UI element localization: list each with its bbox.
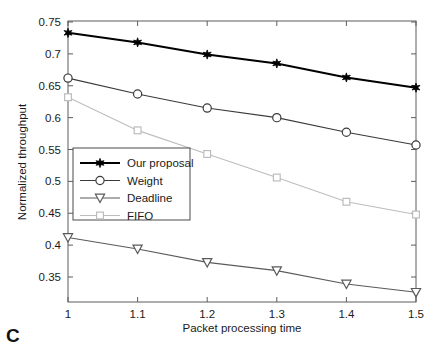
y-tick-label: 0.4 (45, 239, 62, 251)
x-axis-tick-labels: 11.11.21.31.41.5 (65, 308, 424, 320)
y-tick-label: 0.35 (39, 271, 61, 283)
data-point-marker-circle (96, 176, 104, 184)
x-tick-label: 1.2 (199, 308, 215, 320)
x-axis-title: Packet processing time (183, 322, 302, 334)
data-point-marker-square (343, 198, 350, 205)
chart-legend: Our proposalWeightDeadlineFIFO (73, 148, 193, 222)
x-tick-label: 1 (65, 308, 71, 320)
y-tick-label: 0.7 (45, 48, 61, 60)
x-tick-label: 1.3 (269, 308, 285, 320)
y-tick-label: 0.5 (45, 175, 61, 187)
y-tick-label: 0.6 (45, 112, 61, 124)
legend-label: Our proposal (127, 157, 193, 169)
legend-label: Deadline (127, 192, 172, 204)
data-point-marker-circle (273, 114, 281, 122)
y-axis-tick-labels: 0.350.40.450.50.550.60.650.70.75 (39, 16, 62, 283)
data-point-marker-circle (342, 128, 350, 136)
legend-label: FIFO (127, 210, 153, 222)
data-point-marker-square (97, 212, 104, 219)
data-point-marker-circle (64, 74, 72, 82)
data-point-marker-circle (134, 90, 142, 98)
data-point-marker-circle (203, 104, 211, 112)
x-tick-label: 1.4 (338, 308, 355, 320)
y-tick-label: 0.75 (39, 16, 61, 28)
throughput-line-chart: 0.350.40.450.50.550.60.650.70.75 11.11.2… (0, 0, 440, 363)
y-tick-label: 0.45 (39, 207, 61, 219)
y-axis-title: Normalized throughput (16, 103, 28, 220)
figure-panel-c: 0.350.40.450.50.550.60.650.70.75 11.11.2… (0, 0, 440, 363)
data-point-marker-square (134, 127, 141, 134)
data-point-marker-square (413, 211, 420, 218)
data-point-marker-circle (412, 141, 420, 149)
y-tick-label: 0.55 (39, 144, 61, 156)
x-tick-label: 1.5 (408, 308, 424, 320)
y-tick-label: 0.65 (39, 80, 61, 92)
x-tick-label: 1.1 (130, 308, 146, 320)
legend-label: Weight (127, 175, 163, 187)
data-point-marker-square (273, 174, 280, 181)
data-point-marker-square (65, 94, 72, 101)
data-point-marker-square (204, 151, 211, 158)
panel-letter: C (6, 325, 20, 347)
